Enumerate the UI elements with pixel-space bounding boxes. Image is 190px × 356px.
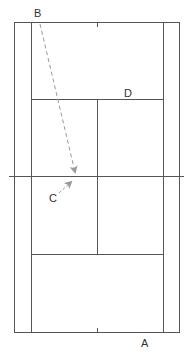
label-a: A <box>141 338 148 349</box>
path-b-arrow <box>40 24 75 172</box>
label-d: D <box>124 88 132 99</box>
path-c-arrow <box>59 182 71 193</box>
label-c: C <box>49 193 57 204</box>
label-b: B <box>34 8 41 19</box>
tennis-court-diagram <box>0 0 190 356</box>
